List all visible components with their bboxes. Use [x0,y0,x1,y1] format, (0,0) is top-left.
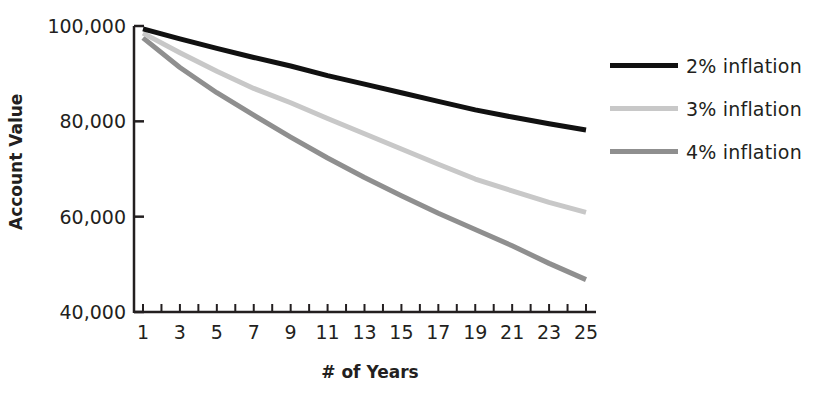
x-tick-label: 11 [315,321,339,343]
x-tick-label: 9 [285,321,297,343]
y-tick-label: 60,000 [60,206,126,228]
x-tick-label: 13 [352,321,376,343]
x-tick-label: 21 [500,321,524,343]
data-lines [143,29,586,280]
legend-label: 2% inflation [686,55,802,77]
x-tick-label: 1 [137,321,149,343]
x-tick-label: 23 [537,321,561,343]
y-tick-label: 40,000 [60,301,126,323]
y-tick-label: 80,000 [60,110,126,132]
x-tick-label: 15 [389,321,413,343]
x-tick-label: 17 [426,321,450,343]
x-tick-label: 3 [174,321,186,343]
legend-item-4pct: 4% inflation [610,130,802,173]
legend-label: 4% inflation [686,141,802,163]
x-axis-label: # of Years [290,362,450,382]
y-tick-label: 100,000 [47,15,126,37]
series-line [143,33,586,212]
x-tick-label: 7 [248,321,260,343]
legend-label: 3% inflation [686,98,802,120]
legend-swatch [610,63,678,68]
legend-item-2pct: 2% inflation [610,44,802,87]
y-axis-label: Account Value [6,110,26,230]
series-line [143,38,586,280]
axes: 40,00060,00080,000100,000135791113151719… [47,15,598,343]
legend-swatch [610,149,678,154]
x-tick-label: 5 [211,321,223,343]
legend: 2% inflation 3% inflation 4% inflation [610,44,802,173]
legend-item-3pct: 3% inflation [610,87,802,130]
x-tick-label: 19 [463,321,487,343]
x-tick-label: 25 [574,321,598,343]
series-line [143,29,586,130]
legend-swatch [610,106,678,111]
